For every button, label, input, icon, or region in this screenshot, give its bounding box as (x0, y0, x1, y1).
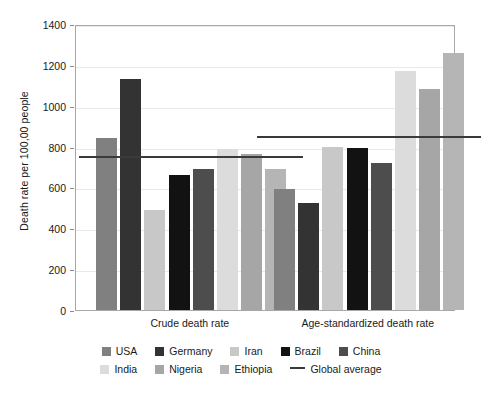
legend-item-global-average[interactable]: Global average (290, 363, 381, 375)
legend-row: USAGermanyIranBrazilChina (102, 345, 381, 357)
legend-item-label: India (114, 363, 137, 375)
bar[interactable] (371, 163, 392, 310)
gridline (76, 67, 454, 68)
y-tick-mark (70, 148, 74, 149)
y-tick-label: 1400 (6, 20, 66, 30)
bar[interactable] (217, 149, 238, 310)
y-tick-mark (70, 66, 74, 67)
legend-color-swatch-icon (281, 347, 290, 356)
bar[interactable] (169, 175, 190, 310)
legend-item-label: Nigeria (169, 363, 202, 375)
y-tick-mark (70, 229, 74, 230)
bar[interactable] (96, 138, 117, 310)
legend-color-swatch-icon (155, 347, 164, 356)
bar[interactable] (193, 169, 214, 310)
bar[interactable] (298, 203, 319, 310)
chart-legend: USAGermanyIranBrazilChinaIndiaNigeriaEth… (0, 345, 482, 375)
legend-item-label: USA (116, 345, 138, 357)
y-tick-label: 800 (6, 143, 66, 153)
bar[interactable] (443, 53, 464, 310)
legend-item-brazil[interactable]: Brazil (281, 345, 321, 357)
bar[interactable] (144, 210, 165, 310)
y-tick-mark (70, 311, 74, 312)
y-tick-mark (70, 270, 74, 271)
legend-item-iran[interactable]: Iran (230, 345, 262, 357)
y-tick-label: 600 (6, 183, 66, 193)
y-tick-mark (70, 188, 74, 189)
legend-item-usa[interactable]: USA (102, 345, 138, 357)
bar[interactable] (274, 189, 295, 310)
bar[interactable] (120, 79, 141, 310)
y-tick-label: 400 (6, 224, 66, 234)
global-average-line (257, 136, 481, 138)
y-tick-mark (70, 25, 74, 26)
legend-item-china[interactable]: China (339, 345, 380, 357)
legend-item-ethiopia[interactable]: Ethiopia (220, 363, 272, 375)
global-average-line (79, 156, 303, 158)
legend-row: IndiaNigeriaEthiopiaGlobal average (100, 363, 381, 375)
y-axis-tick-labels: 0200400600800100012001400 (0, 25, 70, 311)
bar[interactable] (241, 154, 262, 310)
bar[interactable] (419, 89, 440, 310)
legend-item-label: Brazil (295, 345, 321, 357)
legend-item-label: Germany (169, 345, 212, 357)
y-tick-label: 200 (6, 265, 66, 275)
legend-item-nigeria[interactable]: Nigeria (155, 363, 202, 375)
legend-color-swatch-icon (102, 347, 111, 356)
legend-item-label: Iran (244, 345, 262, 357)
y-tick-label: 1000 (6, 102, 66, 112)
legend-item-germany[interactable]: Germany (155, 345, 212, 357)
y-tick-label: 0 (6, 306, 66, 316)
legend-line-swatch-icon (290, 367, 305, 369)
bar[interactable] (322, 147, 343, 310)
legend-color-swatch-icon (100, 365, 109, 374)
y-tick-label: 1200 (6, 61, 66, 71)
legend-color-swatch-icon (339, 347, 348, 356)
bar[interactable] (395, 71, 416, 310)
x-category-label: Age-standardized death rate (253, 317, 482, 329)
legend-item-india[interactable]: India (100, 363, 137, 375)
chart-figure: Death rate per 100,00 people 02004006008… (0, 0, 482, 400)
bar[interactable] (347, 148, 368, 310)
y-tick-mark (70, 107, 74, 108)
legend-item-label: Global average (310, 363, 381, 375)
legend-color-swatch-icon (155, 365, 164, 374)
legend-item-label: China (353, 345, 380, 357)
plot-area (75, 25, 455, 311)
legend-color-swatch-icon (220, 365, 229, 374)
legend-item-label: Ethiopia (234, 363, 272, 375)
gridline (76, 26, 454, 27)
legend-color-swatch-icon (230, 347, 239, 356)
